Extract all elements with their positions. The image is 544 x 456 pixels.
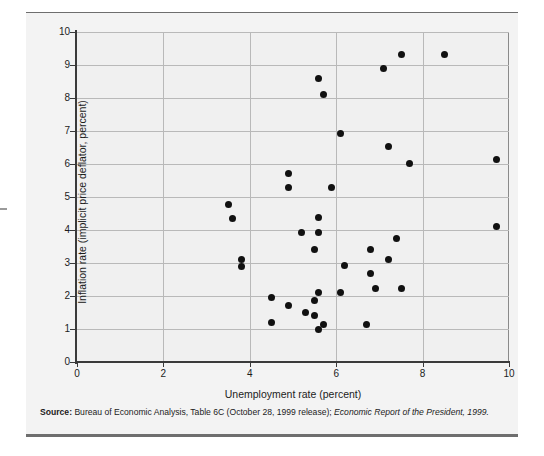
scatter-point [372,285,379,292]
gridline-vertical [423,32,424,362]
scatter-point [441,51,448,58]
scatter-point [363,321,370,328]
scatter-point [385,256,392,263]
gridline-vertical [336,32,337,362]
gridline-horizontal [77,32,509,33]
x-tick-label: 8 [403,369,443,379]
source-text-italic: Economic Report of the President, 1999. [334,407,489,417]
scatter-point [337,289,344,296]
x-axis-title: Unemployment rate (percent) [77,388,509,400]
x-tick-label: 6 [316,369,356,379]
figure-container: 012345678910 0246810 Unemployment rate (… [0,0,544,456]
x-tick-label: 10 [489,369,529,379]
scatter-point [320,91,327,98]
scatter-point [493,223,500,230]
x-tick-label: 2 [143,369,183,379]
scatter-point [238,256,245,263]
gridline-horizontal [77,296,509,297]
y-axis-title: Inflation rate (implicit price deflator,… [76,52,88,352]
scatter-point [367,246,374,253]
scatter-point [393,235,400,242]
scatter-point [385,143,392,150]
gridline-horizontal [77,164,509,165]
gridline-horizontal [77,263,509,264]
x-axis-line [75,361,510,363]
scatter-point [229,215,236,222]
y-axis-title-wrapper: Inflation rate (implicit price deflator,… [42,10,58,390]
source-text-plain: Bureau of Economic Analysis, Table 6C (O… [72,407,334,417]
scatter-point [225,201,232,208]
gridline-vertical [250,32,251,362]
scatter-point [493,156,500,163]
scatter-point [238,263,245,270]
scatter-point [268,319,275,326]
gridline-vertical [163,32,164,362]
scatter-point [380,65,387,72]
gridline-horizontal [77,65,509,66]
gridline-horizontal [77,197,509,198]
gridline-horizontal [77,98,509,99]
scatter-point [285,184,292,191]
gridline-horizontal [77,131,509,132]
scatter-point [311,246,318,253]
bottom-rule [26,434,518,437]
margin-tick-mark [0,208,7,210]
scatter-point [320,321,327,328]
source-note: Source: Bureau of Economic Analysis, Tab… [40,406,510,418]
scatter-point [398,51,405,58]
scatter-point [268,294,275,301]
x-tick-label: 4 [230,369,270,379]
gridline-horizontal [77,230,509,231]
gridline-horizontal [77,329,509,330]
source-label: Source: [40,407,72,417]
scatter-point [398,285,405,292]
scatter-point [406,160,413,167]
scatter-point [315,289,322,296]
x-tick-label: 0 [57,369,97,379]
